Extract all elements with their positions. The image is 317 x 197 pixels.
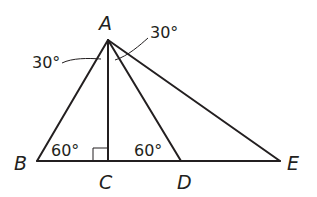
point-label-a: A bbox=[97, 12, 112, 34]
angle-label-dae: 30° bbox=[150, 23, 178, 42]
angle-label-abc: 60° bbox=[51, 141, 79, 160]
angle-label-adc: 60° bbox=[134, 141, 162, 160]
diagram-svg: A B C D E 30° 30° 60° 60° bbox=[0, 0, 317, 197]
point-label-e: E bbox=[287, 152, 299, 174]
point-label-b: B bbox=[14, 152, 27, 174]
point-label-d: D bbox=[177, 171, 192, 193]
right-angle-marker bbox=[93, 148, 108, 161]
point-label-c: C bbox=[99, 171, 113, 193]
geometry-diagram: A B C D E 30° 30° 60° 60° bbox=[0, 0, 317, 197]
angle-label-bac: 30° bbox=[32, 53, 60, 72]
